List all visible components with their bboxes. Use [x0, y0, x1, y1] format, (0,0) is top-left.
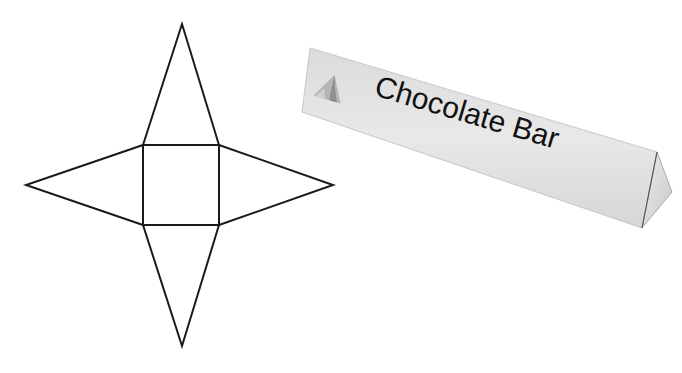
chocolate-bar: Chocolate Bar [302, 48, 672, 228]
net-triangle-left [26, 145, 143, 225]
bar-front-face [302, 48, 657, 228]
net-triangle-right [219, 145, 333, 225]
figure-canvas: Chocolate Bar [0, 0, 682, 373]
net-triangle-bottom [143, 225, 219, 346]
net-triangle-top [143, 24, 219, 145]
pyramid-net [26, 24, 333, 346]
net-square-base [143, 145, 219, 225]
